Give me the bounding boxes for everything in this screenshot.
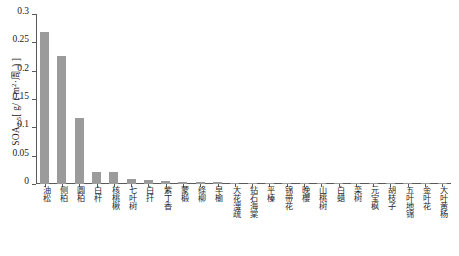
y-tick-label: 0.05 bbox=[12, 149, 29, 159]
x-axis-label: 早榆 bbox=[213, 186, 222, 202]
bar bbox=[75, 118, 84, 184]
x-axis-label: 平榛 bbox=[265, 186, 274, 202]
bars-layer bbox=[36, 14, 451, 184]
x-axis-label: 栾树 bbox=[352, 186, 361, 202]
x-axis-label: 圆柏 bbox=[75, 186, 84, 202]
x-axis-label: 大叶黄杨 bbox=[438, 186, 447, 218]
x-axis-label: 蒙椴 bbox=[179, 186, 188, 202]
y-tick-label: 0 bbox=[24, 177, 29, 187]
y-tick-label: 0.25 bbox=[12, 35, 29, 45]
x-axis-label: 晚櫻 bbox=[300, 186, 309, 202]
x-axis-label: 紫丁香 bbox=[161, 186, 170, 210]
x-axis-label: 油松 bbox=[40, 186, 49, 202]
bar bbox=[109, 172, 118, 184]
x-axis-label: 七叶树 bbox=[127, 186, 136, 210]
x-axis-label: 山桃树 bbox=[317, 186, 326, 210]
x-axis-label: 元宝枫 bbox=[369, 186, 378, 210]
x-axis-label: 白蜡 bbox=[334, 186, 343, 202]
x-axis-category-labels: 油松侧柏圆柏白杆核桃楸七叶树白扦紫丁香蒙椴绦柳早榆大花溲疏钻石海棠平榛锦带花晚櫻… bbox=[36, 186, 451, 256]
y-tick-label: 0.2 bbox=[17, 64, 29, 74]
x-axis-label: 白杆 bbox=[92, 186, 101, 202]
x-axis-label: 核桃楸 bbox=[110, 186, 119, 210]
plot-area: 00.050.10.150.20.250.3 bbox=[36, 14, 451, 184]
x-axis-label: 五叶地锦 bbox=[403, 186, 412, 218]
x-axis-label: 锦带花 bbox=[282, 186, 291, 210]
bar bbox=[40, 32, 49, 184]
x-axis-label: 侧柏 bbox=[58, 186, 67, 202]
y-tick-0: 0 bbox=[32, 184, 36, 185]
soa-emission-bar-chart: SOA2.5[ g/ ( m2·周 ) ] 00.050.10.150.20.2… bbox=[0, 0, 459, 256]
x-axis-label: 绦柳 bbox=[196, 186, 205, 202]
bar bbox=[57, 56, 66, 184]
y-tick-label: 0.1 bbox=[17, 120, 29, 130]
bar bbox=[92, 172, 101, 184]
x-axis-label: 白扦 bbox=[144, 186, 153, 202]
y-tick-label: 0.3 bbox=[17, 7, 29, 17]
x-axis-label: 金叶花 bbox=[421, 186, 430, 210]
y-axis-unit-superscript: 2 bbox=[10, 83, 18, 87]
x-axis-label: 钻石海棠 bbox=[248, 186, 257, 218]
x-axis-label: 大花溲疏 bbox=[231, 186, 240, 218]
x-axis-label: 胡枝子 bbox=[386, 186, 395, 210]
y-tick-label: 0.15 bbox=[12, 92, 29, 102]
